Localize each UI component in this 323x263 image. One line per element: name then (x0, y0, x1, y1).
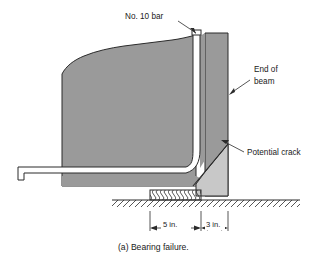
dim-3in-label: 3 in. (206, 220, 220, 229)
no-10-bar-label: No. 10 bar (125, 12, 164, 21)
end-of-beam-arrowhead (229, 88, 235, 95)
beam-lower-block (62, 176, 200, 186)
beam-inner-sliver (200, 33, 205, 168)
dimension-5in: 5 in. (150, 219, 201, 230)
dim-5in-label: 5 in. (163, 220, 177, 229)
annotation-end-of-beam: End of beam (229, 65, 278, 95)
annotation-potential-crack: Potential crack (221, 140, 302, 157)
dim-5in-arrow-left (150, 226, 157, 231)
bearing-pad (150, 190, 201, 200)
dimension-3in: 3 in. (201, 219, 228, 230)
beam-fracture-mass (62, 35, 196, 186)
figure-caption: (a) Bearing failure. (118, 242, 189, 252)
diagram-canvas: No. 10 bar End of beam Potential crack (0, 0, 323, 263)
ground-support (112, 200, 300, 207)
bearing-pad-shape (150, 190, 201, 200)
dim-5in-arrow-right (194, 226, 201, 231)
potential-crack-label: Potential crack (247, 148, 302, 157)
end-of-beam-label-line1: End of (254, 65, 278, 74)
annotation-no-10-bar: No. 10 bar (125, 12, 196, 34)
end-of-beam-label-line2: beam (254, 77, 275, 86)
dimension-row: 5 in. 3 in. (150, 211, 228, 231)
ground-hatch (112, 200, 300, 207)
bearing-failure-figure: No. 10 bar End of beam Potential crack (0, 0, 323, 263)
